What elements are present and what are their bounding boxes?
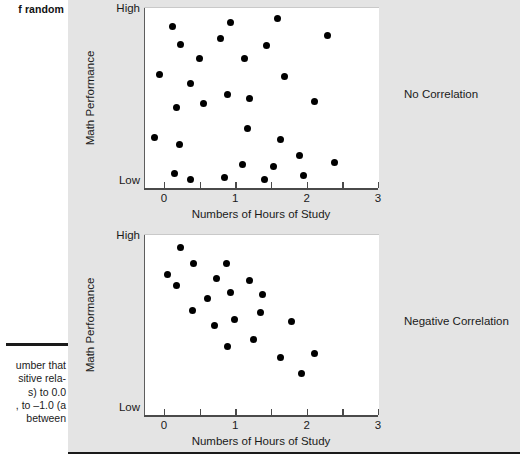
scatter-point xyxy=(257,309,264,316)
scatter-point xyxy=(277,136,284,143)
scatter-point xyxy=(190,260,197,267)
x-axis-tick-label: 2 xyxy=(303,419,309,431)
x-axis-tick-label: 0 xyxy=(161,419,167,431)
x-axis-tick xyxy=(378,409,379,415)
scatter-point xyxy=(281,73,288,80)
y-axis-title-text: Math Performance xyxy=(84,235,96,415)
margin-caption-line: between xyxy=(0,412,66,425)
scatter-point xyxy=(241,55,248,62)
scatter-point xyxy=(231,316,238,323)
scatter-point xyxy=(261,176,268,183)
x-axis-tick-label: 2 xyxy=(303,192,309,204)
scatter-point xyxy=(196,55,203,62)
scatter-point xyxy=(274,15,281,22)
scatter-point xyxy=(173,282,180,289)
x-axis-title: Numbers of Hours of Study xyxy=(144,208,378,220)
x-axis-tick xyxy=(200,182,201,188)
scatter-point xyxy=(213,275,220,282)
x-axis-tick xyxy=(235,182,236,188)
scatter-point xyxy=(250,336,257,343)
scatter-point xyxy=(169,23,176,30)
x-axis-tick xyxy=(200,409,201,415)
scatter-point xyxy=(227,289,234,296)
margin-divider-rule xyxy=(6,343,68,346)
y-axis-high-label: High xyxy=(70,2,140,14)
scatter-point xyxy=(324,32,331,39)
margin-top-text: f random xyxy=(18,3,64,15)
scatter-point xyxy=(296,152,303,159)
y-axis-low-label: Low xyxy=(70,174,140,186)
x-axis-line xyxy=(144,415,378,417)
x-axis-line xyxy=(144,188,378,190)
plot-area xyxy=(144,235,379,415)
x-axis-tick xyxy=(235,409,236,415)
figure-panel: High Low Math Performance Numbers of Hou… xyxy=(68,0,520,452)
scatter-point xyxy=(223,260,230,267)
y-axis-title: Math Performance xyxy=(84,55,100,235)
scatter-point xyxy=(259,291,266,298)
scatter-point xyxy=(151,134,158,141)
scatter-chart-no-correlation: High Low Math Performance Numbers of Hou… xyxy=(68,0,520,226)
x-axis-tick xyxy=(342,182,343,188)
scatter-point xyxy=(288,318,295,325)
scatter-point xyxy=(270,163,277,170)
margin-caption-block: umber that sitive rela- s) to 0.0 , to –… xyxy=(0,359,66,425)
x-axis-tick-label: 3 xyxy=(375,192,381,204)
scatter-point xyxy=(331,159,338,166)
x-axis-tick xyxy=(271,182,272,188)
scatter-point xyxy=(311,98,318,105)
scatter-point xyxy=(277,354,284,361)
x-axis-tick-label: 1 xyxy=(232,192,238,204)
scatter-point xyxy=(311,350,318,357)
scatter-point xyxy=(300,172,307,179)
scatter-point xyxy=(156,71,163,78)
x-axis-tick-label: 0 xyxy=(161,192,167,204)
scatter-point xyxy=(239,161,246,168)
scatter-point xyxy=(263,42,270,49)
page-margin-column: f random umber that sitive rela- s) to 0… xyxy=(0,0,68,463)
scatter-point xyxy=(211,322,218,329)
scatter-chart-negative-correlation: High Low Math Performance Numbers of Hou… xyxy=(68,227,520,453)
scatter-point xyxy=(173,104,180,111)
margin-caption-line: s) to 0.0 xyxy=(0,386,66,399)
y-axis-low-label: Low xyxy=(70,401,140,413)
y-axis-high-label: High xyxy=(70,229,140,241)
scatter-point xyxy=(246,95,253,102)
margin-caption-line: sitive rela- xyxy=(0,372,66,385)
plot-top-edge xyxy=(144,7,379,8)
x-axis-tick xyxy=(164,182,165,188)
scatter-point xyxy=(224,343,231,350)
chart-annotation-label: Negative Correlation xyxy=(404,315,509,327)
scatter-point xyxy=(177,41,184,48)
scatter-point xyxy=(244,125,251,132)
scatter-point xyxy=(177,244,184,251)
scatter-point xyxy=(298,370,305,377)
scatter-point xyxy=(224,91,231,98)
margin-caption-line: umber that xyxy=(0,359,66,372)
scatter-point xyxy=(187,176,194,183)
scatter-point xyxy=(187,80,194,87)
x-axis-tick-label: 1 xyxy=(232,419,238,431)
margin-caption-line: , to –1.0 (a xyxy=(0,399,66,412)
scatter-point xyxy=(221,174,228,181)
plot-top-edge xyxy=(144,234,379,235)
x-axis-tick xyxy=(307,182,308,188)
scatter-point xyxy=(171,170,178,177)
figure-bottom-rule xyxy=(68,452,520,454)
y-axis-title: Math Performance xyxy=(84,0,100,8)
scatter-point xyxy=(176,141,183,148)
plot-area xyxy=(144,8,379,188)
chart-annotation-label: No Correlation xyxy=(404,88,478,100)
scatter-point xyxy=(217,35,224,42)
x-axis-tick xyxy=(271,409,272,415)
scatter-point xyxy=(204,295,211,302)
x-axis-tick xyxy=(307,409,308,415)
x-axis-title: Numbers of Hours of Study xyxy=(144,435,378,447)
scatter-point xyxy=(164,271,171,278)
x-axis-tick xyxy=(378,182,379,188)
scatter-point xyxy=(246,277,253,284)
scatter-point xyxy=(200,100,207,107)
scatter-point xyxy=(189,307,196,314)
x-axis-tick xyxy=(164,409,165,415)
x-axis-tick-label: 3 xyxy=(375,419,381,431)
